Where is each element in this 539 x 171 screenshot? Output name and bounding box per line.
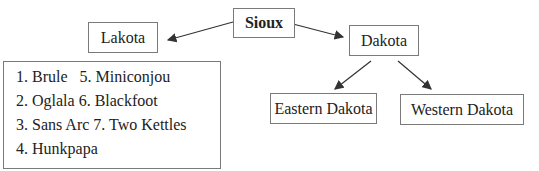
arrow-dakota-to-eastern	[335, 61, 371, 89]
list-item: 1. Brule 5. Miniconjou	[16, 65, 220, 89]
arrow-sioux-to-lakota	[168, 22, 233, 40]
node-dakota: Dakota	[349, 25, 419, 56]
lakota-subgroups-list: 1. Brule 5. Miniconjou 2. Oglala 6. Blac…	[3, 61, 221, 169]
arrow-sioux-to-dakota	[293, 24, 343, 37]
list-item: 2. Oglala 6. Blackfoot	[16, 89, 220, 113]
node-western-dakota: Western Dakota	[400, 94, 524, 125]
node-lakota: Lakota	[88, 22, 158, 53]
node-western-dakota-label: Western Dakota	[411, 101, 513, 119]
list-item: 4. Hunkpapa	[16, 137, 220, 161]
node-eastern-dakota: Eastern Dakota	[270, 93, 377, 124]
list-item: 3. Sans Arc 7. Two Kettles	[16, 113, 220, 137]
node-lakota-label: Lakota	[101, 29, 145, 47]
node-dakota-label: Dakota	[361, 32, 407, 50]
arrow-dakota-to-western	[398, 61, 431, 89]
node-sioux: Sioux	[233, 8, 295, 38]
node-sioux-label: Sioux	[245, 14, 283, 32]
node-eastern-dakota-label: Eastern Dakota	[274, 100, 372, 118]
